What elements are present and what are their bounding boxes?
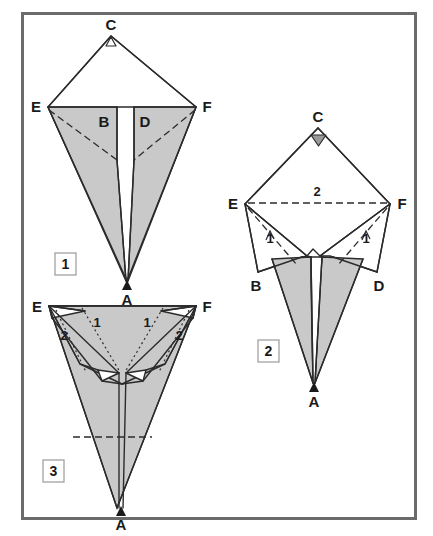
step2-label-D: D	[374, 277, 385, 294]
step2-label-F: F	[397, 195, 406, 212]
step3-label-A: A	[116, 516, 127, 533]
step2-edge-center-join-left	[307, 256, 311, 257]
step2-label-A: A	[309, 393, 320, 410]
step2-label-E: E	[228, 195, 238, 212]
step3-fold-number-upper-left: 2	[60, 328, 67, 343]
step3-number: 3	[50, 463, 58, 479]
step-1-diagram: C E F B D A 1	[31, 16, 212, 308]
step2-fold-number-top: 2	[313, 184, 320, 199]
step-2-diagram: C E F B D A 2 1 1 2	[228, 108, 407, 410]
step3-fold-number-upper-right: 2	[175, 328, 182, 343]
step1-number: 1	[62, 256, 70, 272]
step2-bottom-arrow-icon	[309, 382, 319, 392]
origami-diagram-canvas: C E F B D A 1	[0, 0, 433, 536]
step1-label-D: D	[140, 113, 151, 130]
step2-number: 2	[265, 343, 273, 359]
step1-bottom-arrow-icon	[122, 280, 132, 290]
step2-fold-number-right: 1	[362, 231, 369, 246]
step1-label-F: F	[202, 98, 211, 115]
step1-label-C: C	[106, 16, 117, 33]
step3-label-F: F	[202, 298, 211, 315]
step3-fold-number-center-left: 1	[93, 315, 100, 330]
origami-figure-root: C E F B D A 1	[0, 0, 433, 536]
step2-edge-center-join-right	[320, 256, 322, 257]
step1-label-E: E	[31, 98, 41, 115]
step2-label-C: C	[313, 108, 324, 125]
step2-fold-number-left: 1	[266, 231, 273, 246]
step1-label-B: B	[99, 113, 110, 130]
step-3-diagram: E F A 2 1 1 2 3	[32, 298, 212, 533]
step3-fold-number-center-right: 1	[143, 315, 150, 330]
step3-label-E: E	[32, 298, 42, 315]
step2-label-B: B	[251, 277, 262, 294]
